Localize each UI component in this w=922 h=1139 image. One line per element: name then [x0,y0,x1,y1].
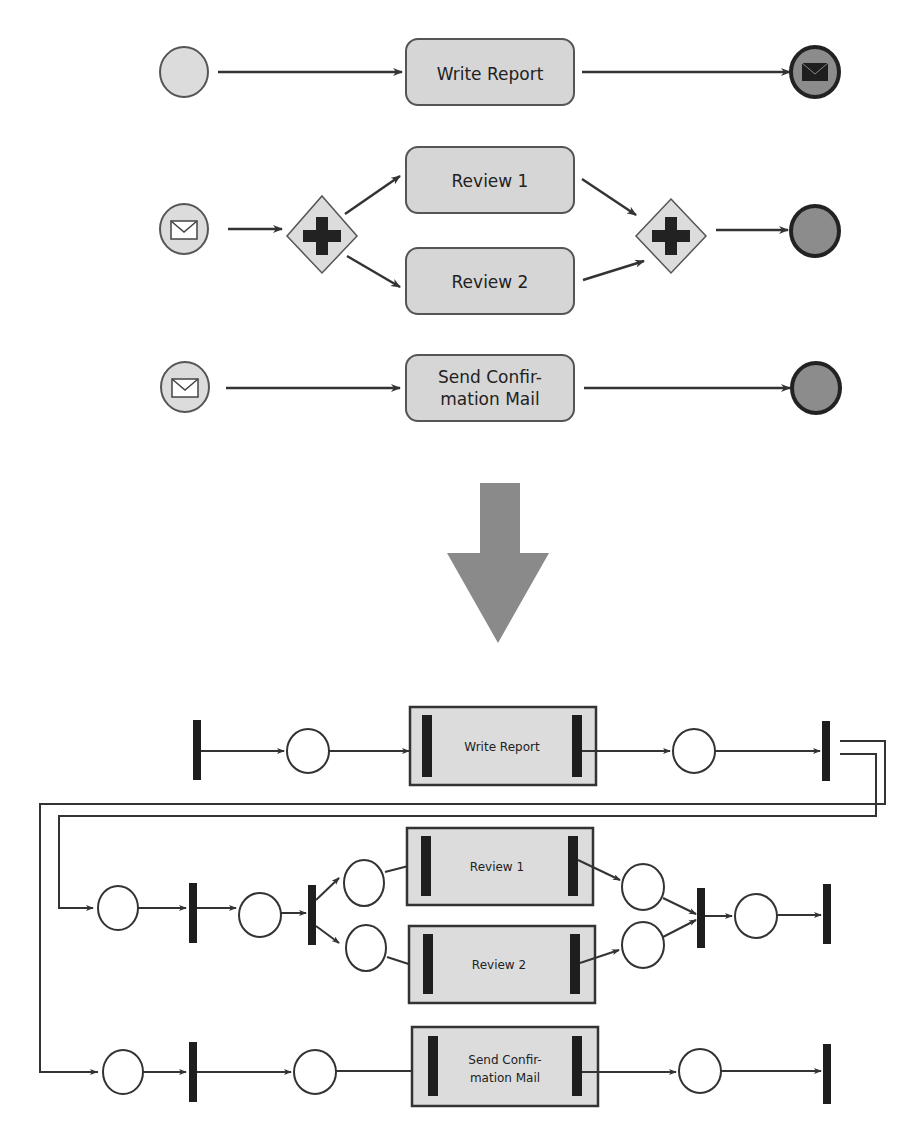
transition [570,934,580,994]
transition [423,934,433,994]
envelope-icon [172,379,198,397]
task-label: Review 1 [452,171,529,191]
place [622,922,664,968]
subnet-label-line1: Send Confir- [468,1053,541,1067]
petri-row-write-report: Write Report [193,707,830,785]
task-label: Write Report [437,64,544,84]
transformation-arrow-icon [447,483,549,643]
bpmn-row-write-report: Write Report [160,39,839,105]
transition [822,721,830,781]
petri-row-reviews: Review 1 Review 2 [98,828,831,1003]
transition [308,885,316,945]
transition [189,1042,197,1102]
subnet-label: Review 2 [472,958,526,972]
transition [422,715,432,777]
task-label-line2: mation Mail [440,389,539,409]
subnet-label-line2: mation Mail [470,1071,540,1085]
envelope-icon [171,221,197,239]
place [103,1050,143,1094]
petri-row-send-mail: Send Confir- mation Mail [103,1027,831,1106]
subnet-label: Review 1 [470,860,524,874]
place [679,1049,721,1093]
transition [697,888,705,948]
subnet-label: Write Report [464,740,540,754]
task-send-confirmation-mail [406,355,574,421]
place [344,860,384,906]
transition [823,884,831,944]
end-event [792,363,840,413]
end-event [791,206,839,256]
transition [189,883,197,943]
place [735,894,777,938]
start-event [160,47,208,97]
place [98,886,138,930]
place [346,925,386,971]
transition [572,715,582,777]
envelope-filled-icon [802,63,828,81]
parallel-split-gateway [287,196,357,273]
bpmn-row-reviews: Review 1 Review 2 [160,147,839,314]
parallel-join-gateway [636,199,706,273]
transition [193,720,201,780]
transition [823,1044,831,1104]
task-label: Review 2 [452,272,529,292]
place [287,729,329,773]
place [673,729,715,773]
petri-net: Write Report Review 1 [40,707,885,1106]
transition [428,1036,438,1096]
place [294,1050,336,1094]
transition [421,836,431,896]
task-label-line1: Send Confir- [438,367,542,387]
place [239,893,281,937]
transition [572,1036,582,1096]
bpmn-model: Write Report Review 1 [160,39,840,421]
place [622,864,664,910]
bpmn-row-send-mail: Send Confir- mation Mail [161,355,840,421]
bpmn-to-petri-diagram: Write Report Review 1 [0,0,922,1139]
transition [568,836,578,896]
